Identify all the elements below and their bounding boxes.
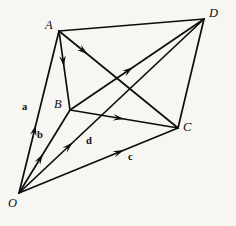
vector-label-b: b — [37, 130, 43, 141]
edge-A-D — [59, 19, 204, 31]
vector-diagram-figure: abdcOABCD — [0, 0, 236, 226]
vector-edges-group — [19, 19, 204, 193]
vector-O-D — [19, 19, 204, 193]
vertex-label-O: O — [8, 197, 17, 210]
vector-label-d: d — [86, 136, 92, 147]
vertex-label-D: D — [209, 7, 218, 20]
vector-B-D — [70, 19, 204, 110]
edge-D-C — [178, 19, 204, 128]
vector-O-B-arrowhead — [34, 154, 43, 165]
vector-label-a: a — [22, 102, 27, 113]
diagram-canvas — [0, 0, 236, 226]
vector-label-c: c — [128, 152, 133, 163]
vector-A-C — [59, 31, 178, 128]
vertex-label-B: B — [54, 98, 62, 111]
vertex-label-A: A — [45, 19, 53, 32]
vector-B-D-arrowhead — [122, 67, 133, 76]
vertex-label-C: C — [183, 121, 191, 134]
